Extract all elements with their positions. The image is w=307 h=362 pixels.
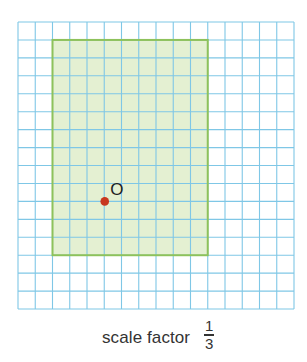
enlargement-grid-diagram	[0, 0, 307, 362]
centre-label-o: O	[110, 180, 123, 200]
centre-of-enlargement-dot	[100, 197, 109, 206]
fraction-denominator: 3	[205, 337, 213, 351]
scale-factor-text: scale factor	[102, 328, 190, 348]
scale-factor-caption: scale factor 1 3	[102, 318, 214, 352]
scale-factor-fraction: 1 3	[204, 319, 214, 350]
fraction-numerator: 1	[205, 319, 213, 333]
